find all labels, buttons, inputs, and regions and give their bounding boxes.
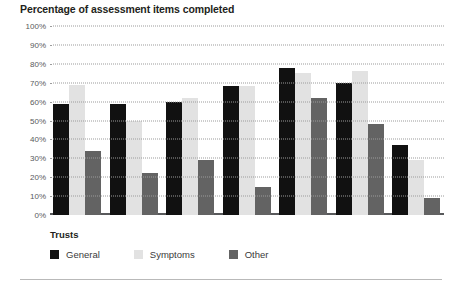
bar-other [255, 187, 271, 215]
bar-symptoms [352, 71, 368, 215]
y-axis-tick-label: 90% [30, 40, 46, 49]
y-axis-tick-label: 60% [30, 97, 46, 106]
chart-title: Percentage of assessment items completed [20, 3, 234, 15]
chart-legend: GeneralSymptomsOther [50, 249, 268, 260]
y-axis-tick-label: 70% [30, 78, 46, 87]
legend-item-label: Other [245, 249, 269, 260]
legend-item-other[interactable]: Other [229, 249, 269, 260]
grid-area [50, 26, 444, 215]
y-axis-tick-label: 50% [30, 116, 46, 125]
bar-other [85, 151, 101, 215]
y-axis-tick-label: 20% [30, 173, 46, 182]
bar-other [424, 198, 440, 215]
y-axis-tick-label: 0% [34, 211, 46, 220]
y-axis-tick-label: 10% [30, 192, 46, 201]
bar-symptoms [126, 121, 142, 216]
bar-symptoms [295, 73, 311, 215]
gridline [50, 82, 444, 83]
legend-title: Trusts [50, 229, 79, 240]
legend-item-symptoms[interactable]: Symptoms [134, 249, 195, 260]
gridline [50, 26, 444, 27]
bar-other [198, 160, 214, 215]
bar-other [311, 98, 327, 215]
gridline [50, 196, 444, 197]
y-axis-tick-label: 80% [30, 59, 46, 68]
gridline [50, 177, 444, 178]
bar-other [368, 124, 384, 215]
legend-swatch-icon [134, 250, 143, 259]
legend-item-label: General [66, 249, 100, 260]
footer-divider [20, 279, 442, 280]
gridline [50, 44, 444, 45]
chart-figure: Percentage of assessment items completed… [0, 0, 460, 287]
gridline [50, 101, 444, 102]
bar-symptoms [182, 98, 198, 215]
bar-general [279, 68, 295, 215]
legend-item-label: Symptoms [150, 249, 195, 260]
y-axis: 100%90%80%70%60%50%40%30%20%10%0% [16, 26, 46, 215]
bar-symptoms [408, 160, 424, 215]
gridline [50, 158, 444, 159]
gridline [50, 120, 444, 121]
legend-item-general[interactable]: General [50, 249, 100, 260]
y-axis-tick-label: 30% [30, 154, 46, 163]
plot-area: 100%90%80%70%60%50%40%30%20%10%0% [16, 26, 444, 222]
bar-other [142, 173, 158, 215]
gridline [50, 139, 444, 140]
y-axis-tick-label: 100% [26, 22, 46, 31]
y-axis-tick-label: 40% [30, 135, 46, 144]
legend-swatch-icon [229, 250, 238, 259]
bar-general [392, 145, 408, 215]
gridline [50, 63, 444, 64]
legend-swatch-icon [50, 250, 59, 259]
